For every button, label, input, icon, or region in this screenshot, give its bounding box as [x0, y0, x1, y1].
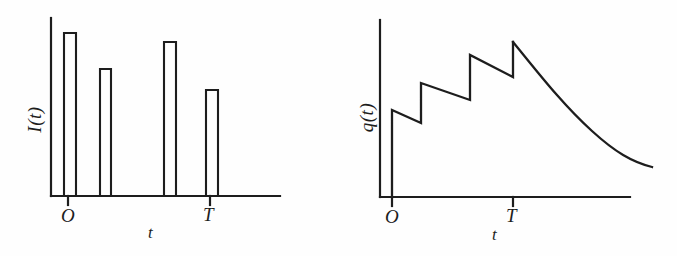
left-plot-canvas: [0, 0, 340, 256]
pulse-bar-1: [64, 33, 76, 196]
panel-charge-plot: q(t) O T t: [340, 0, 677, 256]
left-y-axis-label: I(t): [25, 92, 44, 148]
right-x-axis-label: t: [492, 226, 497, 243]
figure-root: I(t) O T t q(t) O T t: [0, 0, 677, 256]
pulse-bar-2: [100, 69, 111, 196]
charge-sawtooth-curve: [392, 42, 513, 197]
right-period-label: T: [506, 206, 517, 225]
charge-decay-curve: [513, 42, 652, 167]
pulse-bar-4: [206, 90, 218, 196]
right-y-axis-label: q(t): [357, 90, 376, 146]
left-origin-label: O: [61, 206, 75, 225]
pulse-bar-3: [164, 42, 176, 196]
panel-current-plot: I(t) O T t: [0, 0, 340, 256]
left-x-axis-label: t: [148, 224, 153, 241]
right-origin-label: O: [385, 207, 399, 226]
left-period-label: T: [203, 205, 214, 224]
